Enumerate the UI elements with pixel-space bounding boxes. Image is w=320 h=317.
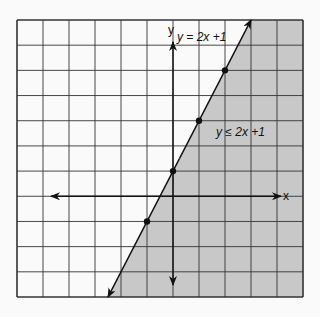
data-point bbox=[170, 168, 176, 174]
plot-area: xyy = 2x +1y ≤ 2x +1 bbox=[17, 20, 309, 297]
data-point bbox=[196, 118, 202, 124]
x-axis-label: x bbox=[283, 189, 289, 203]
line-equation-label: y = 2x +1 bbox=[176, 30, 226, 44]
inequality-label: y ≤ 2x +1 bbox=[215, 125, 265, 139]
shaded-region bbox=[108, 20, 303, 297]
y-axis-label: y bbox=[168, 23, 174, 37]
coordinate-plane: xyy = 2x +1y ≤ 2x +1 bbox=[0, 0, 320, 317]
data-point bbox=[144, 218, 150, 224]
data-point bbox=[222, 67, 228, 73]
